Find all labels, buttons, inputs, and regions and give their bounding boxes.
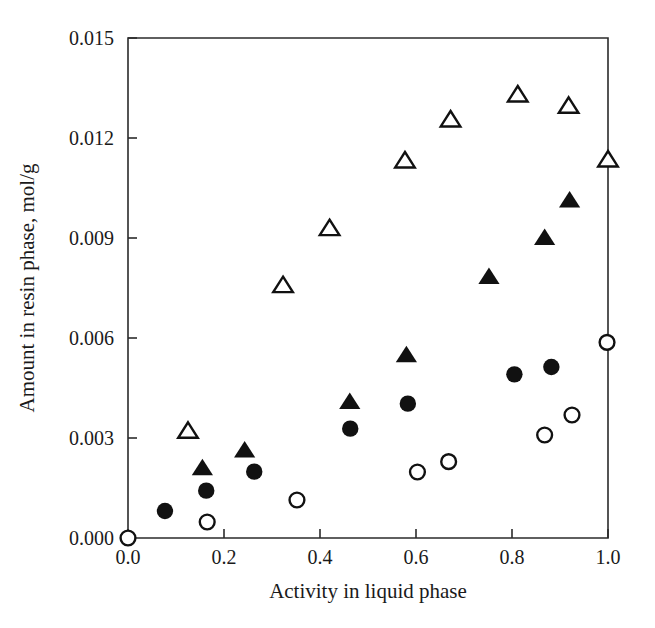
point-filled-circle-3	[342, 420, 358, 436]
y-axis-title: Amount in resin phase, mol/g	[15, 163, 39, 413]
y-tick-label-0: 0.000	[69, 527, 114, 549]
point-filled-circle-2	[246, 463, 262, 479]
point-filled-triangle-5	[534, 228, 555, 245]
point-filled-circle-4	[400, 395, 416, 411]
point-filled-circle-0	[157, 503, 173, 519]
point-open-circle-7	[600, 335, 615, 350]
point-filled-circle-1	[198, 482, 214, 498]
series-filled-circle	[157, 359, 560, 519]
x-tick-label-5: 1.0	[596, 546, 621, 568]
data-markers	[121, 86, 618, 545]
point-open-circle-1	[200, 515, 215, 530]
point-open-circle-5	[537, 428, 552, 443]
y-tick-label-5: 0.015	[69, 27, 114, 49]
point-filled-circle-5	[506, 366, 522, 382]
series-open-triangle	[178, 86, 618, 438]
point-open-triangle-2	[320, 220, 340, 235]
x-axis-title: Activity in liquid phase	[269, 579, 467, 603]
point-filled-triangle-4	[478, 267, 499, 284]
point-open-circle-4	[441, 454, 456, 469]
series-filled-triangle	[192, 191, 580, 475]
point-filled-triangle-6	[559, 191, 580, 208]
point-open-triangle-3	[395, 152, 415, 167]
point-filled-triangle-1	[234, 441, 255, 458]
x-tick-label-3: 0.6	[404, 546, 429, 568]
point-open-triangle-1	[273, 277, 293, 292]
point-open-circle-2	[290, 493, 305, 508]
point-open-triangle-7	[598, 151, 618, 166]
point-open-triangle-4	[441, 111, 461, 126]
y-tick-label-1: 0.003	[69, 427, 114, 449]
x-tick-label-4: 0.8	[500, 546, 525, 568]
x-tick-label-0: 0.0	[116, 546, 141, 568]
point-open-triangle-6	[559, 97, 579, 112]
point-open-triangle-5	[508, 86, 528, 101]
point-filled-triangle-0	[192, 459, 213, 476]
series-open-circle	[121, 335, 615, 545]
point-open-triangle-0	[178, 422, 198, 437]
point-filled-triangle-2	[339, 392, 360, 409]
x-tick-label-2: 0.4	[308, 546, 333, 568]
y-tick-label-3: 0.009	[69, 227, 114, 249]
point-open-circle-0	[121, 531, 136, 546]
plot-svg: 0.00.20.40.60.81.00.0000.0030.0060.0090.…	[0, 0, 655, 628]
point-open-circle-3	[410, 465, 425, 480]
scatter-chart-figure: 0.00.20.40.60.81.00.0000.0030.0060.0090.…	[0, 0, 655, 628]
point-filled-triangle-3	[396, 346, 417, 363]
point-open-circle-6	[565, 408, 580, 423]
y-tick-label-2: 0.006	[69, 327, 114, 349]
point-filled-circle-6	[543, 359, 559, 375]
y-tick-label-4: 0.012	[69, 127, 114, 149]
x-tick-label-1: 0.2	[212, 546, 237, 568]
